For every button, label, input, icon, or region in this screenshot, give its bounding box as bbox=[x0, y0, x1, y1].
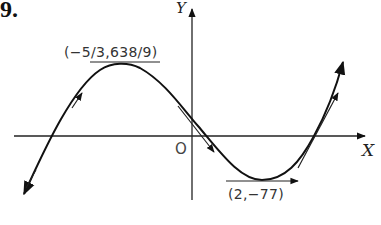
cubic-graph-figure bbox=[0, 0, 381, 225]
local-maximum-label: (−5/3,638/9) bbox=[64, 45, 158, 59]
x-axis-label: X bbox=[362, 142, 374, 159]
tangent-arrow-left-lower bbox=[26, 170, 36, 188]
tangent-arrow-right bbox=[298, 93, 338, 168]
local-minimum-label: (2,−77) bbox=[228, 187, 284, 201]
problem-number: 9. bbox=[0, 0, 18, 21]
y-axis-label: Y bbox=[176, 1, 186, 16]
origin-label: O bbox=[175, 142, 187, 157]
cubic-curve bbox=[24, 62, 343, 194]
